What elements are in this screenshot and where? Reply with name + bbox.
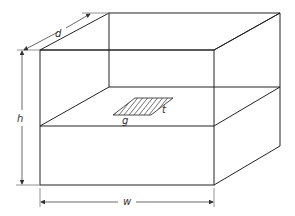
box-diagram: g t d h w xyxy=(0,0,295,216)
right-face xyxy=(214,13,280,185)
label-g: g xyxy=(122,115,128,126)
mid-plane-right-edge xyxy=(214,87,280,126)
dimension-d xyxy=(17,13,109,50)
mid-plane-left-edge xyxy=(40,87,109,126)
label-d: d xyxy=(55,28,62,39)
box-edges xyxy=(40,13,280,185)
label-t: t xyxy=(162,104,167,115)
label-h: h xyxy=(17,113,23,124)
hatched-area xyxy=(110,95,180,120)
label-w: w xyxy=(123,196,132,207)
top-face xyxy=(40,13,280,50)
